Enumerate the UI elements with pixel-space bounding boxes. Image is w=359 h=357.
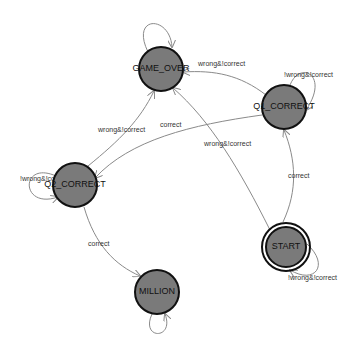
edge-label-start-q1: correct [288,172,309,179]
node-million: MILLION [135,270,179,314]
node-q2-correct: Q2_CORRECT [44,163,106,207]
node-q1-correct: Q1_CORRECT [253,85,315,129]
node-label: GAME_OVER [132,63,190,73]
edge-million-self [149,314,166,334]
state-diagram: wrong&!correct !wrong&!correct correct w… [0,0,359,357]
edge-q1-gameover [183,72,266,95]
edge-label-start-self: !wrong&!correct [288,274,337,282]
edge-label-q1-q2: correct [160,121,181,128]
edge-label-q1-self: !wrong&!correct [284,71,333,79]
node-start: START [262,223,310,271]
edge-label-q1-gameover: wrong&!correct [197,60,245,68]
node-label: Q1_CORRECT [253,101,315,111]
node-label: Q2_CORRECT [44,179,106,189]
node-game-over: GAME_OVER [132,47,190,91]
node-label: MILLION [139,286,175,296]
edge-label-q2-million: correct [88,240,109,247]
node-label: START [272,241,301,251]
edge-label-q2-gameover: wrong&!correct [97,126,145,134]
edge-label-start-gameover: wrong&!correct [203,140,251,148]
